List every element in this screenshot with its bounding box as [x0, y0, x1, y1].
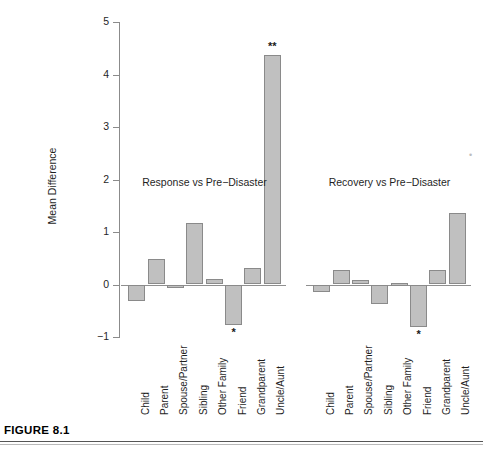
- group-title: Response vs Pre−Disaster: [121, 176, 288, 188]
- y-axis-tick: [113, 232, 119, 233]
- y-axis-tick: [113, 285, 119, 286]
- x-axis-label: Sibling: [199, 385, 209, 415]
- y-axis-tick: [113, 22, 119, 23]
- y-axis-tick-text: 0: [87, 279, 109, 290]
- caption-rule: [0, 441, 483, 442]
- y-axis-tick-text: 4: [87, 69, 109, 80]
- bar: [371, 285, 388, 305]
- y-axis-tick-label: 5: [85, 16, 109, 28]
- zero-baseline: [121, 285, 286, 286]
- bar: [206, 279, 223, 285]
- y-axis-tick-text: 3: [87, 121, 109, 132]
- zero-baseline: [306, 285, 471, 286]
- significance-marker: **: [262, 41, 282, 52]
- y-axis-tick-label: −1: [85, 331, 109, 343]
- y-axis-tick-text: 2: [87, 174, 109, 185]
- y-axis-tick: [113, 337, 119, 338]
- x-axis-label: Parent: [345, 386, 355, 415]
- x-axis-label: Grandparent: [257, 359, 267, 415]
- bar: [264, 55, 281, 285]
- y-axis-tick: [113, 127, 119, 128]
- y-axis-tick-text: −1: [87, 331, 109, 342]
- bar: [333, 270, 350, 284]
- bar: [313, 285, 330, 293]
- y-axis-tick-label: 2: [85, 174, 109, 186]
- chart-plot-area: 543210−1 Mean Difference **** Response v…: [0, 0, 483, 420]
- x-axis-label: Friend: [423, 387, 433, 415]
- x-axis-label: Other Family: [403, 358, 413, 415]
- x-axis-label: Grandparent: [442, 359, 452, 415]
- x-axis-label: Spouse/Partner: [179, 346, 189, 416]
- stray-speck: •: [469, 150, 472, 160]
- significance-marker: *: [409, 329, 429, 340]
- figure-caption-block: FIGURE 8.1: [0, 424, 483, 445]
- y-axis-title: Mean Difference: [46, 116, 58, 256]
- x-axis-label: Child: [326, 392, 336, 415]
- y-axis-tick: [113, 180, 119, 181]
- x-axis-label: Uncle/Aunt: [461, 366, 471, 415]
- bar: [410, 285, 427, 327]
- bar: [186, 223, 203, 285]
- x-axis-label: Spouse/Partner: [364, 346, 374, 416]
- figure-caption-label: FIGURE 8.1: [0, 424, 483, 436]
- bar: [352, 280, 369, 284]
- x-axis-label: Child: [141, 392, 151, 415]
- significance-marker: *: [224, 327, 244, 338]
- x-axis-label: Friend: [238, 387, 248, 415]
- y-axis-tick: [113, 75, 119, 76]
- y-axis-tick-label: 4: [85, 69, 109, 81]
- y-axis-tick-text: 1: [87, 226, 109, 237]
- y-axis-line: [119, 22, 120, 338]
- x-axis-label: Sibling: [384, 385, 394, 415]
- bar: [167, 285, 184, 288]
- bar: [391, 283, 408, 286]
- bar: [449, 213, 466, 285]
- y-axis-tick-label: 3: [85, 121, 109, 133]
- y-axis-tick-label: 1: [85, 226, 109, 238]
- bar: [244, 268, 261, 285]
- x-axis-label: Parent: [160, 386, 170, 415]
- caption-rule-thin: [0, 444, 483, 445]
- x-axis-label: Other Family: [218, 358, 228, 415]
- y-axis-tick-label: 0: [85, 279, 109, 291]
- bar: [148, 259, 165, 285]
- bar: [225, 285, 242, 325]
- figure-container: 543210−1 Mean Difference **** Response v…: [0, 0, 483, 457]
- x-axis-label: Uncle/Aunt: [276, 366, 286, 415]
- bar: [429, 270, 446, 284]
- y-axis-tick-text: 5: [87, 16, 109, 27]
- bar: [128, 285, 145, 302]
- group-title: Recovery vs Pre−Disaster: [306, 176, 473, 188]
